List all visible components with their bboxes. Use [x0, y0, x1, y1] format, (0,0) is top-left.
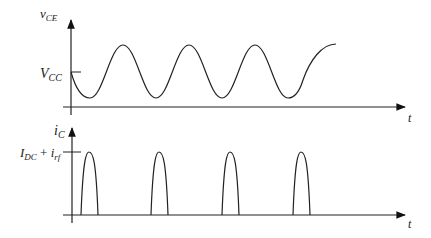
ic-pulse-2 [151, 152, 168, 215]
bottom-plot: iC IDC + irf t [19, 123, 412, 231]
top-plot: vCE VCC t [40, 6, 412, 125]
bottom-t-label: t [408, 217, 412, 231]
top-t-label: t [408, 111, 412, 125]
vcc-label: VCC [40, 66, 62, 83]
ic-pulse-4 [293, 152, 310, 215]
ic-pulse-3 [222, 152, 239, 215]
vce-waveform [71, 44, 336, 98]
waveform-diagram: vCE VCC t iC IDC + irf t [0, 0, 431, 238]
ic-label: iC [54, 123, 65, 140]
ic-pulse-1 [81, 152, 98, 215]
vce-label: vCE [40, 6, 58, 23]
idc-irf-label: IDC + irf [19, 145, 62, 162]
